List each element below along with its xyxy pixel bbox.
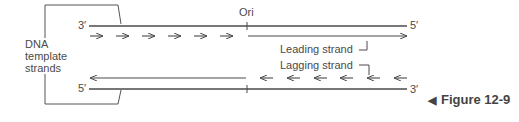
side-label-line-2: template <box>25 50 67 62</box>
top-strand-right-end: 5′ <box>410 19 418 31</box>
figure-caption: ◀Figure 12-9 <box>428 92 510 107</box>
origin-label: Ori <box>239 6 254 18</box>
top-strand-left-end: 3′ <box>78 19 86 31</box>
bottom-strand-left-end: 5′ <box>78 82 86 94</box>
lagging-pointer <box>359 65 369 75</box>
side-label-line-1: DNA <box>25 38 67 50</box>
dna-template-strands-label: DNA template strands <box>25 38 67 74</box>
figure-caption-text: Figure 12-9 <box>441 92 510 107</box>
side-label-line-3: strands <box>25 62 67 74</box>
leading-pointer <box>359 41 367 50</box>
leading-strand-label: Leading strand <box>280 43 353 55</box>
bottom-strand-right-end: 3′ <box>410 83 418 95</box>
lagging-strand-label: Lagging strand <box>280 59 353 71</box>
caption-marker-icon: ◀ <box>428 94 436 106</box>
